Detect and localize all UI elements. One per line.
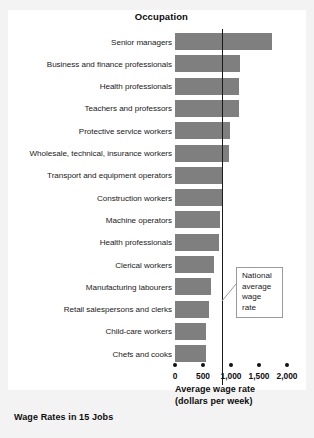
- bar-category-label: Teachers and professors: [85, 104, 172, 113]
- bar-row: Protective service workers: [0, 122, 314, 139]
- bar-row: Senior managers: [0, 33, 314, 50]
- bar-category-label: Business and finance professionals: [47, 59, 172, 68]
- bar-row: Health professionals: [0, 78, 314, 95]
- bar-row: Teachers and professors: [0, 100, 314, 117]
- bar: [175, 256, 214, 273]
- x-axis-tick-label: 500: [196, 371, 210, 381]
- bar-row: Chefs and cooks: [0, 345, 314, 362]
- bar: [175, 234, 219, 251]
- bar: [175, 189, 222, 206]
- bar-row: Transport and equipment operators: [0, 167, 314, 184]
- figure-wage-rates: Occupation Senior managersBusiness and f…: [0, 0, 314, 438]
- bar: [175, 301, 209, 318]
- x-axis-tick-dot: [229, 363, 233, 367]
- bar-category-label: Clerical workers: [115, 260, 172, 269]
- x-axis-title-line: Average wage rate: [175, 384, 255, 396]
- bar-row: Health professionals: [0, 234, 314, 251]
- bar: [175, 100, 239, 117]
- bar: [175, 167, 222, 184]
- x-axis-tick-dot: [257, 363, 261, 367]
- x-axis-tick-dot: [201, 363, 205, 367]
- bar-category-label: Construction workers: [97, 193, 172, 202]
- bar: [175, 145, 229, 162]
- bar: [175, 323, 206, 340]
- bar-category-label: Protective service workers: [79, 126, 172, 135]
- figure-caption: Wage Rates in 15 Jobs: [14, 412, 113, 422]
- bar-category-label: Manufacturing labourers: [86, 282, 172, 291]
- bar-category-label: Wholesale, technical, insurance workers: [30, 149, 172, 158]
- bar-category-label: Health professionals: [100, 238, 172, 247]
- x-axis-tick-dot: [173, 363, 177, 367]
- bar: [175, 78, 239, 95]
- bar: [175, 278, 211, 295]
- bar-category-label: Health professionals: [100, 82, 172, 91]
- bar-row: Wholesale, technical, insurance workers: [0, 145, 314, 162]
- bar-category-label: Transport and equipment operators: [47, 171, 172, 180]
- bar-category-label: Senior managers: [111, 37, 172, 46]
- x-axis-tick-label: 0: [173, 371, 178, 381]
- x-axis-tick-label: 2,000: [277, 371, 298, 381]
- bar-category-label: Machine operators: [106, 215, 172, 224]
- national-average-line: [222, 29, 223, 385]
- bar-row: Machine operators: [0, 211, 314, 228]
- x-axis-title-line: (dollars per week): [175, 396, 255, 408]
- callout-text-line: National: [242, 271, 277, 282]
- bar-row: Construction workers: [0, 189, 314, 206]
- bar: [175, 55, 240, 72]
- bar: [175, 345, 206, 362]
- x-axis-tick-dot: [285, 363, 289, 367]
- plot-area: Senior managersBusiness and finance prof…: [0, 0, 314, 438]
- bar: [175, 211, 220, 228]
- bar-category-label: Retail salespersons and clerks: [64, 305, 172, 314]
- bar-category-label: Chefs and cooks: [112, 349, 172, 358]
- bar-category-label: Child-care workers: [105, 327, 172, 336]
- x-axis-tick-label: 1,000: [221, 371, 242, 381]
- callout-leader-line: [222, 283, 262, 313]
- x-axis-tick-label: 1,500: [249, 371, 270, 381]
- bar-row: Child-care workers: [0, 323, 314, 340]
- x-axis-title: Average wage rate(dollars per week): [175, 384, 255, 407]
- bar-row: Business and finance professionals: [0, 55, 314, 72]
- bar: [175, 33, 272, 50]
